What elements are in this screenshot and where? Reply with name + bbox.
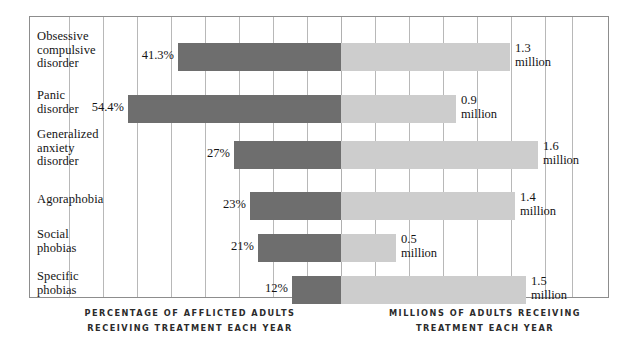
value-label-right: 1.6 million bbox=[543, 140, 579, 167]
bar-left-percentage bbox=[292, 276, 341, 304]
value-label-left: 12% bbox=[192, 282, 288, 296]
value-unit: million bbox=[520, 205, 556, 219]
bar-right-millions bbox=[341, 141, 538, 169]
value-unit: million bbox=[543, 154, 579, 168]
chart-row: Panic disorder 54.4% 0.9 million bbox=[30, 81, 608, 123]
value-label-right: 0.5 million bbox=[401, 233, 437, 260]
caption-line: MILLIONS OF ADULTS RECEIVING bbox=[350, 306, 620, 321]
bar-right-millions bbox=[341, 95, 456, 123]
row-label-line: phobias bbox=[37, 242, 129, 256]
value-number: 0.9 bbox=[461, 94, 497, 108]
bar-right-millions bbox=[341, 234, 396, 262]
value-label-left: 21% bbox=[158, 240, 254, 254]
value-number: 1.6 bbox=[543, 140, 579, 154]
bar-left-percentage bbox=[234, 141, 341, 169]
value-unit: million bbox=[515, 56, 551, 70]
row-label-line: Generalized bbox=[37, 128, 129, 142]
bar-left-percentage bbox=[258, 234, 341, 262]
value-number: 0.5 bbox=[401, 233, 437, 247]
axis-caption-right: MILLIONS OF ADULTS RECEIVING TREATMENT E… bbox=[350, 306, 620, 336]
row-label: Generalized anxiety disorder bbox=[37, 128, 129, 169]
caption-line: PERCENTAGE OF AFFLICTED ADULTS bbox=[40, 306, 340, 321]
bidirectional-bar-chart: Obsessive compulsive disorder 41.3% 1.3 … bbox=[0, 0, 639, 343]
bar-left-percentage bbox=[250, 192, 341, 220]
row-label-line: disorder bbox=[37, 155, 129, 169]
row-label-line: anxiety bbox=[37, 142, 129, 156]
row-label-line: Social bbox=[37, 228, 129, 242]
axis-caption-left: PERCENTAGE OF AFFLICTED ADULTS RECEIVING… bbox=[40, 306, 340, 336]
value-label-right: 1.3 million bbox=[515, 42, 551, 69]
chart-row: Specific phobias 12% 1.5 million bbox=[30, 262, 608, 304]
value-unit: million bbox=[461, 108, 497, 122]
value-label-right: 1.4 million bbox=[520, 191, 556, 218]
value-label-right: 1.5 million bbox=[531, 275, 567, 302]
bar-left-percentage bbox=[178, 43, 341, 71]
value-label-left: 54.4% bbox=[30, 101, 124, 115]
bar-left-percentage bbox=[128, 95, 341, 123]
value-label-right: 0.9 million bbox=[461, 94, 497, 121]
chart-row: Obsessive compulsive disorder 41.3% 1.3 … bbox=[30, 29, 608, 71]
value-label-left: 41.3% bbox=[78, 49, 174, 63]
row-label: Social phobias bbox=[37, 228, 129, 255]
value-unit: million bbox=[531, 289, 567, 303]
value-number: 1.3 bbox=[515, 42, 551, 56]
row-label: Specific phobias bbox=[37, 270, 129, 297]
caption-line: TREATMENT EACH YEAR bbox=[350, 321, 620, 336]
bar-right-millions bbox=[341, 192, 515, 220]
plot-area: Obsessive compulsive disorder 41.3% 1.3 … bbox=[29, 16, 609, 298]
row-label-line: phobias bbox=[37, 284, 129, 298]
value-number: 1.4 bbox=[520, 191, 556, 205]
value-label-left: 23% bbox=[150, 198, 246, 212]
row-label-line: Agoraphobia bbox=[37, 193, 129, 207]
row-label: Agoraphobia bbox=[37, 193, 129, 207]
value-unit: million bbox=[401, 247, 437, 261]
value-label-left: 27% bbox=[134, 147, 230, 161]
caption-line: RECEIVING TREATMENT EACH YEAR bbox=[40, 321, 340, 336]
bar-right-millions bbox=[341, 276, 526, 304]
row-label-line: Specific bbox=[37, 270, 129, 284]
row-label-line: Obsessive bbox=[37, 30, 129, 44]
chart-row: Agoraphobia 23% 1.4 million bbox=[30, 178, 608, 220]
chart-row: Social phobias 21% 0.5 million bbox=[30, 220, 608, 262]
chart-row: Generalized anxiety disorder 27% 1.6 mil… bbox=[30, 127, 608, 169]
bar-right-millions bbox=[341, 43, 510, 71]
value-number: 1.5 bbox=[531, 275, 567, 289]
